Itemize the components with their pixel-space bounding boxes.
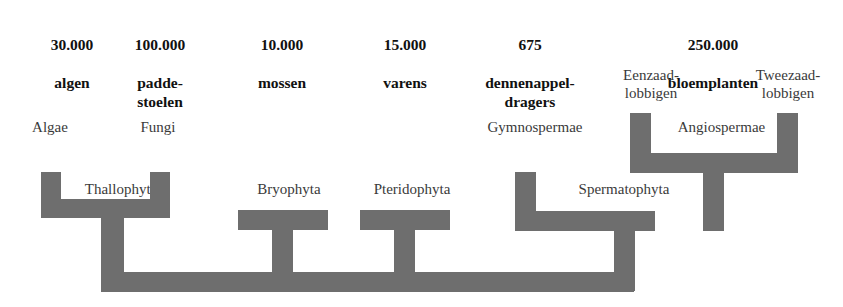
branch-angiospermae-stem — [703, 153, 724, 231]
taxon-label-pteridophyta: Pteridophyta — [352, 180, 472, 198]
taxon-label-angiospermae: Angiospermae — [659, 118, 784, 136]
column-name-dennenappeldragers: dennenappel- dragers — [440, 73, 620, 111]
column-header-mossen: 10.000 mossen — [222, 16, 342, 111]
column-count-paddestoelen: 100.000 — [100, 35, 220, 54]
column-header-paddestoelen: 100.000 padde- stoelen — [100, 16, 220, 130]
column-count-dennenappeldragers: 675 — [440, 35, 620, 54]
taxon-label-algae: Algae — [14, 118, 86, 136]
taxon-label-bryophyta: Bryophyta — [237, 180, 341, 198]
taxon-label-spermatophyta: Spermatophyta — [559, 180, 689, 198]
phylogenetic-tree-diagram: 30.000 algen 100.000 padde- stoelen 10.0… — [0, 0, 843, 307]
taxon-label-fungi: Fungi — [126, 118, 190, 136]
taxon-label-eenzaadlobbigen: Eenzaad- lobbigen — [596, 66, 706, 102]
column-header-dennenappeldragers: 675 dennenappel- dragers — [440, 16, 620, 130]
column-count-bloemplanten: 250.000 — [608, 35, 818, 54]
column-name-paddestoelen: padde- stoelen — [100, 73, 220, 111]
column-name-mossen: mossen — [222, 73, 342, 92]
branch-main-trunk — [101, 272, 634, 292]
taxon-label-tweezaadlobbigen: Tweezaad- lobbigen — [733, 66, 843, 102]
column-count-mossen: 10.000 — [222, 35, 342, 54]
taxon-label-gymnospermae: Gymnospermae — [470, 118, 600, 136]
